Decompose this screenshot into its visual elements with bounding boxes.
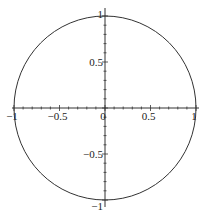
- tick-marks: [14, 16, 196, 200]
- y-tick-label: 1: [98, 8, 104, 20]
- y-tick-label: −0.5: [83, 148, 103, 160]
- axes: [12, 8, 199, 207]
- x-tick-label: −0.5: [48, 110, 68, 122]
- y-tick-label: −1: [91, 200, 103, 212]
- x-tick-label: 0: [100, 110, 106, 122]
- circle-plot: −1−0.500.51−1−0.50.51: [0, 0, 200, 213]
- x-tick-label: −1: [6, 110, 18, 122]
- y-tick-label: 0.5: [89, 56, 103, 68]
- tick-labels: −1−0.500.51−1−0.50.51: [6, 8, 197, 212]
- x-tick-label: 0.5: [142, 110, 156, 122]
